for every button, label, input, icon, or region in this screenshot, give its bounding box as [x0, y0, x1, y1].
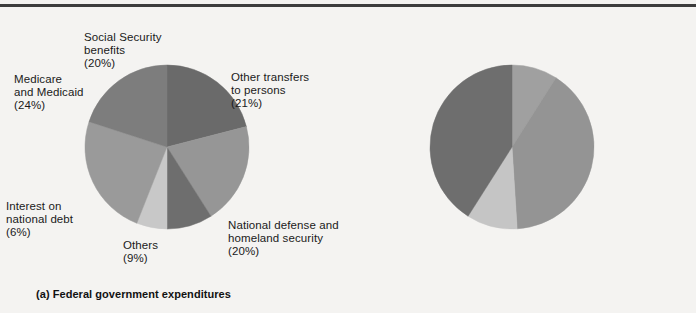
panel-federal-expenditures: Social Security benefits (20%) Medicare … [0, 7, 348, 313]
label-medicare-and-medicaid: Medicare and Medicaid (24%) [14, 73, 134, 113]
label-social-security-benefits: Social Security benefits (20%) [84, 31, 214, 71]
label-other-transfers-to-persons: Other transfers to persons (21%) [231, 71, 351, 111]
pie-chart-revenue [429, 64, 595, 230]
label-national-defense-homeland-security: National defense and homeland security (… [228, 219, 353, 259]
plot-area: Social Security benefits (20%) Medicare … [0, 7, 696, 313]
panel-federal-revenue: Personal income taxes (41%) Corporate in… [348, 7, 696, 313]
pie-svg-revenue [429, 64, 595, 230]
label-others: Others (9%) [123, 239, 203, 265]
label-interest-on-national-debt: Interest on national debt (6%) [6, 200, 126, 240]
caption-panel-a: (a) Federal government expenditures [36, 288, 231, 300]
figure-container: Social Security benefits (20%) Medicare … [0, 0, 696, 313]
